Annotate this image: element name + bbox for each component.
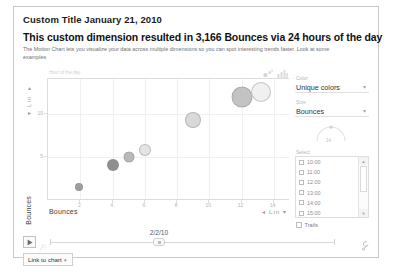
- select-option-label: 10:00: [307, 159, 321, 165]
- y-axis-tick-mark: [44, 156, 47, 157]
- wrench-icon[interactable]: [359, 237, 369, 255]
- description-text: The Motion Chart lets you visualize your…: [23, 45, 353, 62]
- timeline-handle[interactable]: [153, 238, 165, 246]
- x-scale-caret: ▾: [283, 208, 287, 215]
- y-axis-tick-mark: [44, 113, 47, 114]
- select-option-checkbox[interactable]: [299, 211, 304, 216]
- data-bubble[interactable]: [185, 112, 201, 128]
- select-option-checkbox[interactable]: [299, 200, 304, 205]
- timeline-date-label: 2/2/10: [150, 229, 168, 236]
- gridline-vertical: [274, 79, 275, 199]
- trails-checkbox[interactable]: [296, 222, 302, 228]
- color-select[interactable]: Unique colors ▾: [295, 82, 369, 93]
- select-option-row[interactable]: 15:00: [296, 208, 359, 218]
- select-option-checkbox[interactable]: [299, 160, 304, 165]
- select-option-checkbox[interactable]: [299, 180, 304, 185]
- plot-area[interactable]: [47, 78, 289, 200]
- timeline-track[interactable]: [50, 242, 335, 243]
- headline: This custom dimension resulted in 3,166 …: [23, 31, 369, 43]
- trails-label: Trails: [305, 222, 318, 228]
- play-button[interactable]: [23, 236, 36, 248]
- gridline-horizontal: [48, 157, 289, 158]
- report-card: Custom Title January 21, 2010 This custo…: [13, 6, 379, 258]
- select-label: Select: [296, 149, 371, 155]
- gridline-vertical: [209, 79, 210, 199]
- chevron-down-icon: ▾: [363, 82, 366, 93]
- size-label: Size: [296, 99, 371, 105]
- data-bubble[interactable]: [251, 82, 271, 102]
- select-list-scrollbar[interactable]: ▲ ▼: [358, 157, 368, 217]
- y-axis-tick-label: 5: [40, 153, 43, 159]
- motion-chart-page: Custom Title January 21, 2010 This custo…: [0, 0, 393, 272]
- select-option-label: 15:00: [307, 210, 321, 216]
- x-axis-tick-mark: [273, 200, 274, 203]
- y-scale-label: Lin: [25, 96, 32, 107]
- data-bubble[interactable]: [107, 159, 119, 171]
- x-axis-tick-mark: [176, 200, 177, 203]
- timeline-track-end: [334, 239, 335, 245]
- x-axis-tick-mark: [208, 200, 209, 203]
- select-option-label: 14:00: [307, 200, 321, 206]
- x-scale-selector[interactable]: ◂ Lin ▾: [262, 208, 287, 215]
- select-option-row[interactable]: 10:00: [296, 157, 359, 167]
- motion-chart: Hour of the day: [23, 69, 371, 234]
- select-option-row[interactable]: 11:00: [296, 167, 359, 177]
- size-select[interactable]: Bounces ▾: [295, 106, 369, 117]
- series-label: Hour of the day: [49, 70, 80, 75]
- y-axis-title[interactable]: Bounces: [25, 196, 32, 225]
- chevron-down-icon: ▾: [64, 257, 67, 263]
- color-select-value: Unique colors: [296, 83, 340, 92]
- y-axis-tick-label: 10: [37, 110, 43, 116]
- select-option-row[interactable]: 14:00: [296, 198, 359, 208]
- custom-title: Custom Title January 21, 2010: [23, 14, 369, 25]
- gridline-vertical: [113, 79, 114, 199]
- chevron-down-icon: ▾: [363, 106, 366, 117]
- x-axis-tick-mark: [241, 200, 242, 203]
- gridline-vertical: [80, 79, 81, 199]
- chart-options-panel: Color Unique colors ▾ Size Bounces ▾ 14: [295, 75, 371, 227]
- x-scale-label: Lin: [269, 208, 280, 215]
- gridline-horizontal: [48, 114, 289, 115]
- trails-option[interactable]: Trails: [295, 222, 371, 228]
- y-scale-selector[interactable]: ◂ Lin ▾: [25, 85, 32, 118]
- option-select-list[interactable]: 10:0011:0012:0013:0014:0015:00 ▲ ▼: [295, 156, 369, 218]
- select-option-label: 12:00: [307, 179, 321, 185]
- chart-type-toolbar[interactable]: [263, 69, 288, 78]
- x-axis-tick-mark: [79, 200, 80, 203]
- report-header: Custom Title January 21, 2010 This custo…: [14, 7, 378, 62]
- select-option-checkbox[interactable]: [299, 190, 304, 195]
- link-to-chart-label: Link to chart: [28, 256, 62, 263]
- scrollbar-thumb[interactable]: [360, 166, 367, 192]
- select-option-row[interactable]: 12:00: [296, 177, 359, 187]
- link-to-chart-button[interactable]: Link to chart▾: [23, 253, 73, 266]
- size-slider-value: 14: [326, 138, 331, 143]
- bubble-chart-icon[interactable]: [263, 69, 274, 78]
- select-option-checkbox[interactable]: [299, 170, 304, 175]
- x-scale-caret-left: ◂: [262, 208, 266, 215]
- color-label: Color: [296, 75, 371, 81]
- gridline-vertical: [177, 79, 178, 199]
- plot-wrapper: 2468101214510: [47, 78, 289, 200]
- data-bubble[interactable]: [231, 87, 252, 108]
- chart-main-area: Hour of the day: [23, 69, 289, 231]
- gridline-vertical: [145, 79, 146, 199]
- x-axis-title[interactable]: Bounces: [49, 208, 78, 215]
- select-option-label: 11:00: [307, 169, 320, 175]
- size-slider[interactable]: 14: [295, 123, 369, 147]
- select-option-label: 13:00: [307, 190, 321, 196]
- y-scale-caret: ▾: [25, 85, 32, 93]
- timeline-controls: 2/2/10: [23, 235, 371, 251]
- y-scale-caret-left: ◂: [25, 110, 32, 118]
- select-option-row[interactable]: 13:00: [296, 188, 359, 198]
- size-select-value: Bounces: [296, 107, 324, 116]
- scroll-up-icon[interactable]: ▲: [359, 157, 368, 165]
- bar-chart-icon[interactable]: [277, 69, 288, 78]
- scroll-down-icon[interactable]: ▼: [359, 209, 368, 217]
- data-bubble[interactable]: [123, 152, 134, 163]
- x-axis-tick-mark: [144, 200, 145, 203]
- data-bubble[interactable]: [75, 183, 83, 191]
- play-icon: [27, 239, 33, 246]
- x-axis-tick-mark: [112, 200, 113, 203]
- data-bubble[interactable]: [139, 144, 151, 156]
